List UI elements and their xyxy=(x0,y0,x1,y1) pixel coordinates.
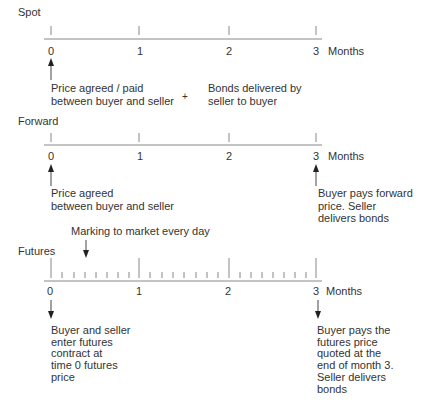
forward-tick-2: 2 xyxy=(226,150,232,163)
futures-arrow-down-icon xyxy=(48,300,54,319)
futures-timeline xyxy=(44,258,322,281)
futures-tick-1: 1 xyxy=(136,285,142,298)
spot-note-right: Bonds delivered by seller to buyer xyxy=(208,82,302,107)
forward-arrow-up-icon-3 xyxy=(313,164,319,186)
futures-tick-3: 3 xyxy=(313,285,319,298)
forward-note-right: Buyer pays forward price. Seller deliver… xyxy=(318,187,413,225)
plus-sign: + xyxy=(182,91,188,104)
futures-label: Futures xyxy=(18,245,55,258)
forward-label: Forward xyxy=(18,115,58,128)
spot-tick-2: 2 xyxy=(226,45,232,58)
spot-label: Spot xyxy=(18,6,41,19)
futures-arrow-down-icon-3 xyxy=(315,300,321,319)
spot-tick-1: 1 xyxy=(137,45,143,58)
spot-tick-0: 0 xyxy=(48,45,54,58)
spot-arrow-up-icon xyxy=(48,58,54,80)
forward-tick-3: 3 xyxy=(313,150,319,163)
futures-tick-0: 0 xyxy=(47,285,53,298)
forward-tick-0: 0 xyxy=(48,150,54,163)
forward-arrow-up-icon xyxy=(48,164,54,186)
futures-tick-2: 2 xyxy=(225,285,231,298)
spot-timeline xyxy=(44,26,322,39)
forward-tick-1: 1 xyxy=(137,150,143,163)
forward-note-left: Price agreed between buyer and seller xyxy=(51,187,174,212)
spot-note-left: Price agreed / paid between buyer and se… xyxy=(51,82,174,107)
forward-unit: Months xyxy=(328,150,364,163)
spot-tick-3: 3 xyxy=(313,45,319,58)
marking-arrow-down-icon xyxy=(83,240,89,258)
futures-note-left: Buyer and seller enter futures contract … xyxy=(51,325,131,384)
marking-note: Marking to market every day xyxy=(71,225,210,238)
futures-note-right: Buyer pays the futures price quoted at t… xyxy=(317,325,393,395)
futures-unit: Months xyxy=(326,285,362,298)
spot-unit: Months xyxy=(328,45,364,58)
forward-timeline xyxy=(44,133,322,145)
